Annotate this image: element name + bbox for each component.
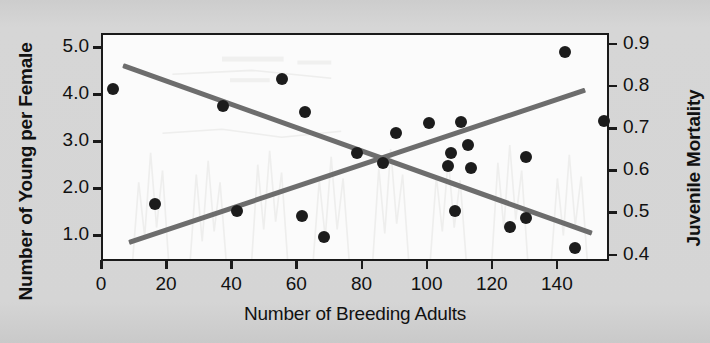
y-axis-left-title: Number of Young per Female — [11, 0, 41, 343]
x-axis-tick-mark — [491, 260, 494, 269]
x-axis-tick-mark — [361, 260, 364, 269]
data-point — [423, 117, 435, 129]
y-axis-left-tick-label: 1.0 — [43, 223, 89, 245]
data-point — [442, 160, 454, 172]
x-axis-tick-label: 120 — [472, 273, 512, 295]
data-point — [465, 162, 477, 174]
data-point — [598, 115, 610, 127]
data-point — [390, 127, 402, 139]
x-axis-tick-mark — [426, 260, 429, 269]
data-point — [107, 83, 119, 95]
y-axis-right-tick-mark — [608, 85, 617, 88]
x-axis-tick-label: 140 — [537, 273, 577, 295]
x-axis-tick-label: 20 — [146, 273, 186, 295]
data-point — [559, 46, 571, 58]
data-point — [299, 106, 311, 118]
data-point — [276, 73, 288, 85]
y-axis-right-tick-label: 0.9 — [623, 32, 669, 54]
data-point — [445, 147, 457, 159]
y-axis-left-tick-label: 2.0 — [43, 176, 89, 198]
y-axis-right-tick-label: 0.6 — [623, 158, 669, 180]
x-axis-tick-label: 60 — [276, 273, 316, 295]
y-axis-right-tick-mark — [608, 43, 617, 46]
data-point — [449, 205, 461, 217]
trend-line-increasing — [128, 88, 585, 245]
x-axis-title: Number of Breeding Adults — [101, 303, 609, 325]
y-axis-left-tick-label: 3.0 — [43, 129, 89, 151]
y-axis-right-tick-mark — [608, 254, 617, 257]
y-axis-left-tick-label: 4.0 — [43, 82, 89, 104]
y-axis-right-title: Juvenile Mortality — [679, 18, 709, 318]
data-point — [569, 242, 581, 254]
data-point — [318, 231, 330, 243]
data-point — [462, 139, 474, 151]
data-point — [296, 210, 308, 222]
y-axis-right-tick-label: 0.8 — [623, 74, 669, 96]
x-axis-tick-label: 80 — [342, 273, 382, 295]
x-axis-tick-mark — [556, 260, 559, 269]
data-point — [520, 212, 532, 224]
data-point — [504, 221, 516, 233]
y-axis-right-tick-mark — [608, 211, 617, 214]
x-axis-tick-label: 40 — [211, 273, 251, 295]
y-axis-right-tick-mark — [608, 127, 617, 130]
y-axis-right-tick-label: 0.5 — [623, 200, 669, 222]
plot-area — [101, 33, 609, 261]
figure-container: Number of Young per Female Juvenile Mort… — [0, 0, 710, 343]
data-layer — [103, 35, 607, 259]
x-axis-tick-label: 0 — [81, 273, 121, 295]
data-point — [351, 147, 363, 159]
x-axis-tick-mark — [165, 260, 168, 269]
y-axis-left-tick-label: 5.0 — [43, 35, 89, 57]
data-point — [149, 198, 161, 210]
x-axis-tick-mark — [295, 260, 298, 269]
data-point — [231, 205, 243, 217]
data-point — [377, 157, 389, 169]
x-axis-tick-mark — [100, 260, 103, 269]
data-point — [217, 100, 229, 112]
y-axis-right-tick-mark — [608, 169, 617, 172]
y-axis-right-tick-label: 0.7 — [623, 116, 669, 138]
x-axis-tick-label: 100 — [407, 273, 447, 295]
data-point — [520, 151, 532, 163]
y-axis-right-tick-label: 0.4 — [623, 243, 669, 265]
x-axis-tick-mark — [230, 260, 233, 269]
